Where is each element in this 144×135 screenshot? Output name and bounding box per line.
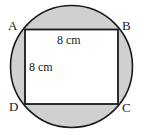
vertex-label-b: B: [122, 19, 131, 32]
vertex-label-a: A: [8, 19, 17, 32]
vertex-label-c: C: [122, 101, 131, 114]
geometry-figure: A B C D 8 cm 8 cm: [0, 0, 144, 135]
measurement-label-top-side: 8 cm: [57, 34, 81, 46]
vertex-label-d: D: [9, 100, 18, 113]
measurement-label-left-side: 8 cm: [29, 61, 53, 73]
